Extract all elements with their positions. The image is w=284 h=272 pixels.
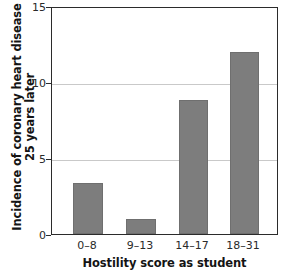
bar-1[interactable]	[126, 219, 156, 234]
x-tick-label-0: 0–8	[77, 239, 97, 252]
x-axis-tick-labels: 0–8 9–13 14–17 18–31	[51, 239, 278, 255]
x-axis-title: Hostility score as student	[51, 256, 278, 270]
x-tick-label-1: 9–13	[127, 239, 154, 252]
y-tick-mark-0	[46, 235, 51, 236]
bar-chart-figure: Incidence of coronary heart disease 25 y…	[0, 0, 284, 272]
y-tick-label-0: 0	[24, 230, 46, 241]
y-tick-label-5: 5	[24, 154, 46, 165]
y-tick-label-10: 10	[24, 78, 46, 89]
plot-area	[51, 7, 278, 235]
x-tick-label-2: 14–17	[175, 239, 209, 252]
y-tick-label-15: 15	[24, 2, 46, 13]
y-axis-tick-labels: 0 5 10 15	[24, 0, 46, 272]
bar-0[interactable]	[73, 183, 103, 234]
bar-3[interactable]	[230, 52, 259, 234]
x-tick-label-3: 18–31	[226, 239, 260, 252]
bar-2[interactable]	[179, 100, 208, 234]
